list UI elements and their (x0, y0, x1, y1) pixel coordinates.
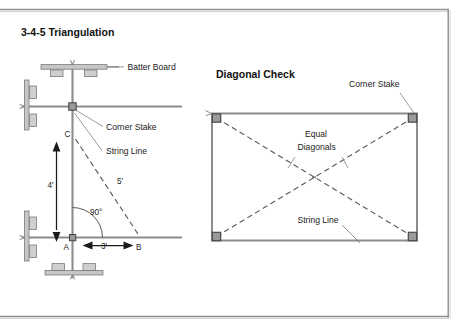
corner-stake-top-left (212, 114, 220, 122)
leader-corner-stake-right (400, 93, 414, 113)
batter-board-bottom-post-right (83, 264, 96, 271)
diagonal-check-diagram: Corner Stake Equal Diagonals String Line (206, 79, 418, 243)
dimension-3ft-label: 3' (101, 242, 108, 251)
dimension-4ft (53, 142, 61, 243)
label-equal-diagonals-line2: Diagonals (298, 142, 336, 152)
batter-board-left-upper-post-top (30, 86, 37, 99)
corner-stake-bottom-left (212, 232, 220, 240)
batter-board-top-post-left (51, 70, 64, 77)
batter-board-bottom-ledger (45, 270, 103, 275)
leader-equal-diagonals-right (342, 157, 348, 168)
batter-board-bottom-post-left (52, 264, 65, 271)
label-equal-diagonals-line1: Equal (305, 129, 327, 139)
right-panel-title: Diagonal Check (216, 68, 295, 80)
leader-corner-stake-left (77, 111, 103, 127)
triangulation-diagram: Batter Board Corner Stake String Line C (20, 60, 182, 279)
dimension-5ft-label: 5' (117, 177, 124, 186)
label-string-line-left: String Line (106, 146, 147, 156)
triangle-vertex-a-label: A (64, 243, 70, 252)
batter-board-left-lower-ledger (24, 211, 29, 261)
triangle-vertex-c-label: C (65, 130, 71, 139)
batter-board-top-ledger (41, 65, 107, 70)
batter-board-top (41, 60, 119, 76)
diagonal-intersection-mark (312, 177, 316, 179)
dimension-3ft-arrowhead-right (124, 242, 134, 250)
batter-board-left-lower-post-top (30, 217, 37, 230)
corner-stake-bottom-right (408, 232, 416, 240)
batter-board-left-upper-post-bottom (30, 114, 37, 127)
figure-page: 3-4-5 Triangulation (0, 0, 468, 330)
left-panel-title: 3-4-5 Triangulation (21, 26, 114, 38)
batter-board-left-lower-post-bottom (30, 245, 37, 258)
batter-board-top-post-right (85, 70, 98, 77)
batter-board-left-upper (20, 80, 37, 130)
batter-board-left-upper-ledger (24, 80, 29, 130)
dimension-4ft-arrowhead-top (53, 142, 61, 152)
label-batter-board: Batter Board (128, 62, 176, 72)
leader-string-line-left (75, 113, 103, 151)
batter-board-left-lower (20, 211, 37, 261)
corner-stake-lower-body (70, 235, 76, 241)
label-string-line-right: String Line (298, 215, 339, 225)
corner-stake-top-right (408, 114, 416, 122)
batter-board-bottom (45, 264, 103, 280)
dimension-3ft (83, 242, 134, 250)
corner-stake-lower (70, 235, 76, 241)
label-corner-stake-left: Corner Stake (106, 122, 157, 132)
triangle-vertex-b-label: B (136, 243, 142, 252)
corner-stake-upper-body (69, 103, 76, 110)
batter-board-top-string-notch (70, 60, 74, 64)
dimension-3ft-arrowhead-left (83, 242, 93, 250)
label-corner-stake-right: Corner Stake (349, 79, 400, 89)
right-angle-label: 90° (90, 208, 102, 217)
construction-layout-diagram: 3-4-5 Triangulation (0, 0, 468, 330)
dimension-4ft-label: 4' (48, 181, 55, 190)
corner-stake-upper (69, 103, 76, 110)
